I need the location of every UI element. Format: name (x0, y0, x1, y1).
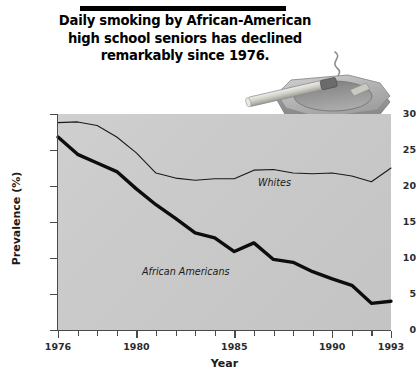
y-axis-tick-label: 10 (372, 252, 416, 263)
x-axis-line (57, 330, 391, 331)
series-line-african-americans (58, 137, 391, 303)
y-axis-line (57, 114, 58, 331)
plot-lines (58, 114, 391, 330)
title-rule (80, 6, 286, 11)
y-axis-tick (50, 330, 57, 331)
y-axis-tick (50, 186, 57, 187)
x-axis-tick (195, 331, 196, 336)
x-axis-tick (58, 331, 59, 338)
x-axis-tick (176, 331, 177, 336)
x-axis-tick-label: 1990 (312, 341, 352, 352)
x-axis-tick (78, 331, 79, 336)
y-axis-tick (50, 150, 57, 151)
x-axis-tick-label: 1980 (116, 341, 156, 352)
x-axis-tick (215, 331, 216, 336)
x-axis-tick (371, 331, 372, 336)
x-axis-tick (136, 331, 137, 338)
y-axis-tick (50, 258, 57, 259)
x-axis-tick (97, 331, 98, 336)
x-axis-tick (313, 331, 314, 336)
chart: Whites African Americans 051015202530 19… (0, 100, 416, 383)
y-axis-tick (50, 222, 57, 223)
y-axis-tick-label: 5 (372, 288, 416, 299)
x-axis-tick (391, 331, 392, 338)
y-axis-tick-label: 0 (372, 324, 416, 335)
x-axis-tick (332, 331, 333, 338)
series-label-whites: Whites (258, 177, 291, 188)
x-axis-tick (274, 331, 275, 336)
x-axis-tick (254, 331, 255, 336)
plot-area: Whites African Americans (58, 114, 391, 330)
y-axis-tick-label: 15 (372, 216, 416, 227)
series-label-african-americans: African Americans (142, 266, 230, 277)
title-line-2: high school seniors has declined (42, 30, 328, 48)
x-axis-tick-label: 1993 (371, 341, 411, 352)
y-axis-title: Prevalence (%) (10, 159, 23, 279)
y-axis-tick (50, 114, 57, 115)
series-line-whites (58, 122, 391, 182)
x-axis-tick-label: 1985 (214, 341, 254, 352)
x-axis-title: Year (58, 357, 391, 370)
title-line-1: Daily smoking by African-American (42, 12, 328, 30)
y-axis-tick-label: 20 (372, 180, 416, 191)
x-axis-tick (293, 331, 294, 336)
x-axis-tick (352, 331, 353, 336)
x-axis-tick (156, 331, 157, 336)
x-axis-tick-label: 1976 (38, 341, 78, 352)
y-axis-tick-label: 30 (372, 108, 416, 119)
x-axis-tick (117, 331, 118, 336)
y-axis-tick (50, 294, 57, 295)
x-axis-tick (234, 331, 235, 338)
y-axis-tick-label: 25 (372, 144, 416, 155)
